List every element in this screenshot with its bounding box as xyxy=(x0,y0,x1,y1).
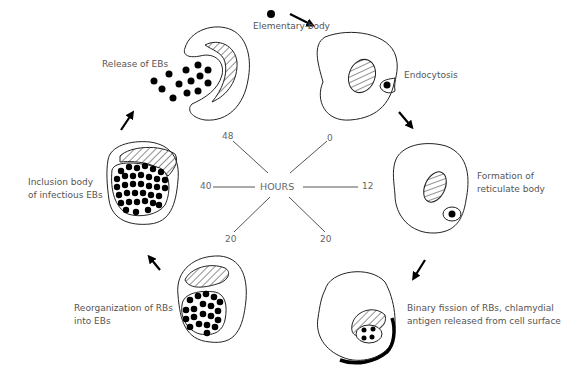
hour-mark-20-right: 20 xyxy=(320,234,331,244)
label-binary-fission: Binary fission of RBs, chlamydial antige… xyxy=(407,302,561,327)
label-inclusion-line1: Inclusion body xyxy=(28,176,103,189)
hour-mark-48: 48 xyxy=(222,131,233,141)
cell-inclusion-body xyxy=(107,142,178,225)
hours-center-label: HOURS xyxy=(260,181,294,192)
elementary-body-dot xyxy=(267,10,275,18)
cell-release xyxy=(151,27,250,120)
label-formation: Formation of reticulate body xyxy=(477,170,545,195)
cell-binary-fission xyxy=(317,272,395,363)
label-reorganization-line1: Reorganization of RBs xyxy=(74,302,173,315)
label-inclusion-line2: of infectious EBs xyxy=(28,189,103,202)
hour-mark-0: 0 xyxy=(327,133,333,143)
label-reorganization: Reorganization of RBs into EBs xyxy=(74,302,173,327)
label-release: Release of EBs xyxy=(102,58,168,70)
hour-mark-40: 40 xyxy=(200,181,211,191)
label-binary-fission-line1: Binary fission of RBs, chlamydial xyxy=(407,302,561,315)
cell-reorganization xyxy=(178,256,247,342)
label-elementary-body: Elementary body xyxy=(253,20,330,32)
label-formation-line2: reticulate body xyxy=(477,183,545,196)
label-reorganization-line2: into EBs xyxy=(74,315,173,328)
label-inclusion-body: Inclusion body of infectious EBs xyxy=(28,176,103,201)
hour-mark-12: 12 xyxy=(362,181,373,191)
label-binary-fission-line2: antigen released from cell surface xyxy=(407,315,561,328)
label-formation-line1: Formation of xyxy=(477,170,545,183)
label-endocytosis: Endocytosis xyxy=(404,69,458,81)
cell-formation-reticulate-body xyxy=(393,144,468,233)
hour-mark-20-left: 20 xyxy=(225,234,236,244)
cell-endocytosis xyxy=(317,32,397,120)
